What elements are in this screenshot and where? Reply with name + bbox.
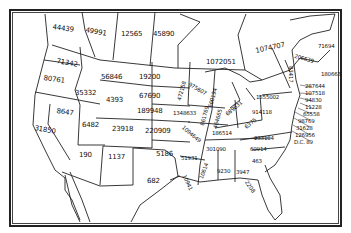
ne-ks-line	[152, 120, 190, 122]
label-vermont: 83417	[288, 66, 294, 83]
label-manitoba: 45890	[153, 31, 174, 38]
label-pennsylvania: 914118	[252, 110, 272, 116]
us-outline-map	[0, 0, 351, 233]
tx-outline	[131, 148, 180, 222]
label-new-jersey: 65558	[303, 112, 320, 118]
label-alabama: 9230	[217, 169, 230, 175]
label-new-hampshire: 287644	[305, 84, 325, 90]
label-new-mexico: 1137	[108, 154, 125, 161]
label-massachusetts: 107518	[305, 91, 325, 97]
az-mx-line	[62, 172, 100, 186]
label-virginia: 233104	[254, 136, 274, 142]
label-nebraska: 189948	[137, 108, 163, 115]
label-virginia-area: 126956	[295, 133, 315, 139]
label-texas: 682	[147, 178, 160, 185]
label-montana: 56846	[101, 74, 122, 81]
label-south-carolina: 463	[252, 159, 262, 165]
label-saskatchewan: 12565	[121, 31, 142, 38]
label-arizona: 190	[79, 152, 92, 159]
label-kansas: 220909	[145, 128, 171, 135]
label-north-carolina: 60914	[250, 147, 267, 153]
province-line-sk-mb	[150, 12, 155, 66]
ks-ok-line	[152, 140, 190, 142]
label-north-dakota: 19200	[139, 74, 160, 81]
label-georgia: 3947	[236, 170, 249, 176]
label-south-dakota: 67690	[139, 93, 160, 100]
co-nm-line	[103, 146, 152, 148]
label-rhode-island: 94830	[305, 98, 322, 104]
label-arkansas: 51931	[181, 156, 198, 162]
label-kentucky: 186514	[212, 131, 232, 137]
label-maryland: 31628	[296, 126, 313, 132]
label-tennessee: 301090	[206, 147, 226, 153]
label-dc: D.C. 89	[294, 140, 313, 146]
label-new-brunswick: 71694	[318, 44, 335, 50]
label-utah: 6482	[82, 122, 99, 129]
pacific-coast	[33, 14, 80, 220]
label-oklahoma: 5186	[156, 151, 173, 158]
ms-al-line	[218, 150, 235, 182]
label-wyoming: 4393	[106, 97, 123, 104]
label-ontario: 1072051	[206, 59, 236, 66]
label-delaware: 98769	[298, 119, 315, 125]
label-new-york: 1555002	[256, 95, 279, 101]
sd-ne-line	[152, 104, 190, 106]
province-line-ab-sk	[113, 12, 118, 60]
label-iowa: 1348633	[173, 111, 196, 117]
label-connecticut: 11228	[305, 105, 322, 111]
label-colorado: 23918	[112, 126, 133, 133]
label-idaho: 35332	[75, 90, 96, 97]
label-nova-scotia: 180663	[321, 72, 341, 78]
az-nm-line	[100, 146, 103, 185]
wy-co-line	[96, 118, 152, 120]
